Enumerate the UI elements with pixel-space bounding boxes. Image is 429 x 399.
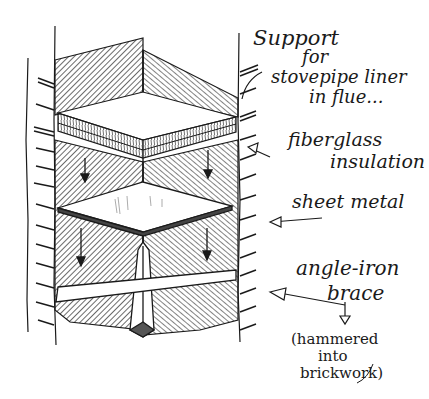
right-brick-wall [238, 33, 258, 342]
left-brick-wall [26, 26, 56, 345]
label-angle-iron: angle-iron [296, 258, 399, 278]
note-line-3: brickwork) [300, 366, 383, 381]
title-line-4: in flue... [309, 88, 384, 106]
note-line-2: into [318, 349, 348, 364]
label-fiberglass: fiberglass [288, 130, 382, 149]
label-sheet-metal: sheet metal [292, 192, 404, 211]
label-insulation: insulation [330, 152, 425, 171]
title-line-2: for [302, 48, 328, 66]
title-line-3: stovepipe liner [271, 68, 407, 86]
note-line-1: (hammered [291, 332, 378, 347]
label-brace: brace [327, 283, 384, 303]
